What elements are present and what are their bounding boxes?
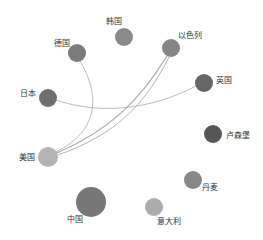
- node-label-italy: 意大利: [157, 216, 181, 226]
- node-label-china: 中国: [67, 214, 83, 224]
- labels-layer: 韩国以色列德国英国日本卢森堡美国丹麦中国意大利: [19, 16, 250, 226]
- node-germany[interactable]: [68, 44, 86, 62]
- node-label-germany: 德国: [54, 38, 70, 48]
- edge-germany-usa: [56, 61, 93, 152]
- node-uk[interactable]: [195, 74, 213, 92]
- node-label-uk: 英国: [216, 75, 232, 85]
- node-label-israel: 以色列: [178, 30, 202, 40]
- node-label-korea: 韩国: [106, 16, 122, 26]
- network-graph: 韩国以色列德国英国日本卢森堡美国丹麦中国意大利: [0, 0, 263, 240]
- node-israel[interactable]: [162, 39, 180, 57]
- node-label-denmark: 丹麦: [202, 182, 218, 192]
- node-luxembourg[interactable]: [204, 125, 222, 143]
- node-label-usa: 美国: [19, 152, 35, 162]
- node-italy[interactable]: [145, 198, 163, 216]
- node-japan[interactable]: [39, 89, 57, 107]
- edges-layer: [56, 56, 196, 155]
- edge-japan-uk: [56, 86, 196, 108]
- node-denmark[interactable]: [184, 171, 202, 189]
- node-usa[interactable]: [38, 147, 58, 167]
- nodes-layer: [38, 28, 222, 217]
- node-label-japan: 日本: [20, 88, 36, 98]
- node-korea[interactable]: [115, 28, 133, 46]
- node-label-luxembourg: 卢森堡: [226, 130, 250, 140]
- node-china[interactable]: [76, 187, 106, 217]
